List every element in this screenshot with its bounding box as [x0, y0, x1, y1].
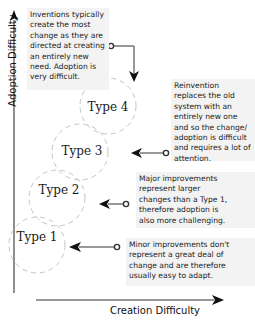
type-2-label: Type 2 [38, 183, 79, 197]
connector-dot-icon [163, 150, 168, 155]
type-3-label: Type 3 [61, 144, 102, 158]
type-1-label: Type 1 [16, 230, 57, 244]
note-minor: Minor improvements don't represent a gre… [126, 238, 255, 286]
connector-reinvention [131, 148, 169, 158]
type-2-circle [29, 170, 85, 226]
note-reinvention-text: Reinvention replaces the old system with… [174, 81, 252, 164]
note-reinvention: Reinvention replaces the old system with… [171, 79, 255, 161]
connector-dot-icon [108, 43, 113, 48]
type-4-label: Type 4 [87, 100, 128, 114]
connector-minor [69, 242, 120, 252]
note-inventions-text: Inventions typically create the most cha… [30, 10, 106, 83]
note-inventions: Inventions typically create the most cha… [27, 8, 109, 90]
connector-inventions [108, 43, 139, 82]
y-axis-label: Adoption Difficulty [7, 11, 18, 111]
note-major-text: Major improvements represent larger chan… [139, 174, 252, 226]
x-axis-label: Creation Difficulty [95, 305, 215, 316]
type-1-circle [9, 217, 65, 273]
note-minor-text: Minor improvements don't represent a gre… [129, 240, 252, 282]
connector-dot-icon [114, 244, 119, 249]
connector-major [99, 199, 129, 209]
note-major: Major improvements represent larger chan… [136, 172, 255, 228]
connector-dot-icon [123, 201, 128, 206]
